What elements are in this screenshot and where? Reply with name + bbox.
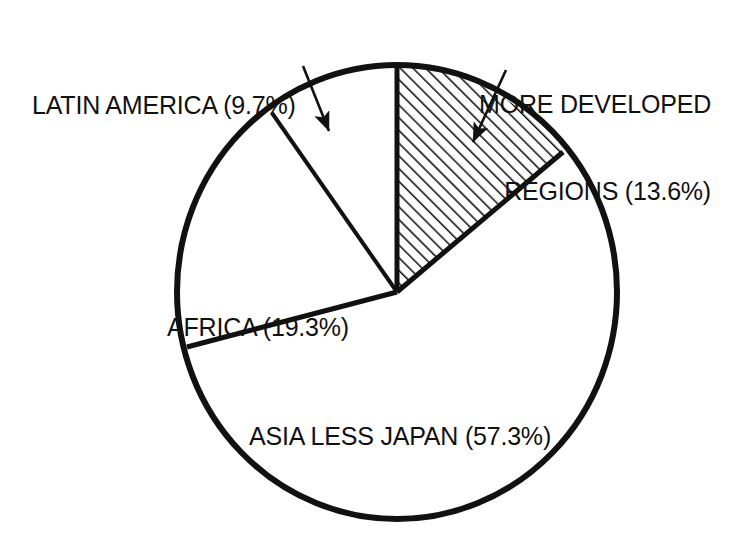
slice-label-asia-less-japan-text: ASIA LESS JAPAN (57.3%) bbox=[249, 422, 551, 451]
slice-label-africa-text: AFRICA (19.3%) bbox=[167, 313, 349, 342]
slice-label-asia-less-japan: ASIA LESS JAPAN (57.3%) bbox=[249, 364, 551, 509]
slice-label-more-developed-regions-line2: REGIONS (13.6%) bbox=[479, 177, 711, 206]
pie-chart-figure: LATIN AMERICA (9.7%) MORE DEVELOPED REGI… bbox=[0, 0, 737, 545]
slice-label-latin-america-text: LATIN AMERICA (9.7%) bbox=[32, 91, 296, 120]
slice-label-more-developed-regions-line1: MORE DEVELOPED bbox=[479, 90, 711, 119]
slice-label-more-developed-regions: MORE DEVELOPED REGIONS (13.6%) bbox=[479, 32, 711, 264]
slice-label-latin-america: LATIN AMERICA (9.7%) bbox=[32, 33, 296, 178]
